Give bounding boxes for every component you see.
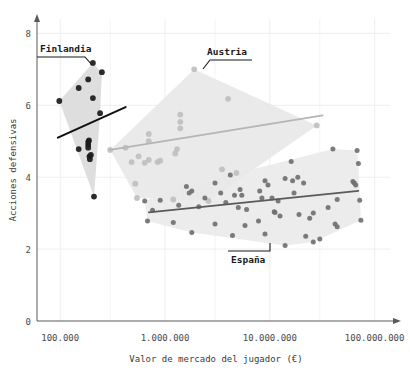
callout-espana: España <box>228 243 270 265</box>
point-españa-31 <box>355 148 360 153</box>
x-tick-0: 100.000 <box>41 333 79 343</box>
point-españa-45 <box>213 221 218 226</box>
point-españa-5 <box>213 180 218 185</box>
point-españa-54 <box>297 212 302 217</box>
point-austria-16 <box>132 181 138 187</box>
point-finlandia-13 <box>91 194 97 200</box>
point-austria-2 <box>177 112 183 118</box>
point-españa-20 <box>289 159 294 164</box>
austria-leader-line <box>203 60 252 69</box>
point-españa-58 <box>202 196 207 201</box>
point-españa-26 <box>330 147 335 152</box>
point-españa-21 <box>290 178 295 183</box>
point-españa-27 <box>335 197 340 202</box>
point-españa-57 <box>176 203 181 208</box>
y-axis-title: Acciones defensivas <box>8 119 18 222</box>
x-tick-3: 100.000.000 <box>345 333 405 343</box>
espana-label: España <box>231 254 266 265</box>
y-tick-labels: 02468 <box>26 29 31 327</box>
point-españa-0 <box>142 198 147 203</box>
point-finlandia-3 <box>99 69 105 75</box>
y-axis-arrow <box>34 14 40 22</box>
point-españa-13 <box>263 178 268 183</box>
point-austria-13 <box>157 158 163 164</box>
point-austria-1 <box>225 96 231 102</box>
point-españa-37 <box>317 237 322 242</box>
point-españa-41 <box>263 232 268 237</box>
point-españa-9 <box>238 187 243 192</box>
point-españa-14 <box>266 183 271 188</box>
point-españa-7 <box>228 173 233 178</box>
point-españa-55 <box>307 216 312 221</box>
point-austria-10 <box>129 159 135 165</box>
x-tick-2: 10.000.000 <box>243 333 297 343</box>
point-finlandia-6 <box>76 146 82 152</box>
point-españa-48 <box>145 219 150 224</box>
point-austria-22 <box>136 153 142 159</box>
point-españa-34 <box>358 218 363 223</box>
point-austria-0 <box>191 66 197 72</box>
cluster-hulls <box>59 63 361 246</box>
point-austria-14 <box>219 166 225 172</box>
finlandia-leader-line <box>37 57 92 65</box>
chart-container: 02468 100.0001.000.00010.000.000100.000.… <box>0 0 410 375</box>
point-españa-1 <box>158 198 163 203</box>
point-finlandia-14 <box>86 138 92 144</box>
y-tick-0: 0 <box>26 317 31 327</box>
y-tick-1: 2 <box>26 245 31 255</box>
point-españa-30 <box>353 183 358 188</box>
point-austria-18 <box>170 197 176 203</box>
point-españa-2 <box>184 184 189 189</box>
point-españa-8 <box>232 193 237 198</box>
point-austria-8 <box>172 151 178 157</box>
finlandia-label: Finlandia <box>40 43 92 54</box>
point-finlandia-12 <box>97 110 103 116</box>
point-austria-15 <box>234 170 240 176</box>
point-españa-39 <box>303 234 308 239</box>
x-tick-labels: 100.0001.000.00010.000.000100.000.000 <box>41 333 404 343</box>
point-finlandia-9 <box>85 145 91 151</box>
point-austria-21 <box>142 160 148 166</box>
point-españa-36 <box>333 221 338 226</box>
hull-finlandia <box>59 63 102 197</box>
point-españa-32 <box>356 161 361 166</box>
point-finlandia-0 <box>56 98 62 104</box>
point-españa-12 <box>259 196 264 201</box>
point-españa-56 <box>326 205 331 210</box>
point-finlandia-4 <box>85 77 91 83</box>
scatter-plot: 02468 100.0001.000.00010.000.000100.000.… <box>0 0 410 375</box>
point-españa-24 <box>301 180 306 185</box>
point-austria-3 <box>177 119 183 125</box>
callout-finlandia: Finlandia <box>37 43 92 65</box>
point-españa-25 <box>311 211 316 216</box>
point-españa-59 <box>236 205 241 210</box>
point-finlandia-1 <box>76 85 82 91</box>
point-españa-22 <box>292 191 297 196</box>
point-españa-19 <box>283 176 288 181</box>
point-españa-43 <box>243 223 248 228</box>
callout-austria: Austria <box>203 46 252 69</box>
point-españa-4 <box>187 191 192 196</box>
y-tick-3: 6 <box>26 101 31 111</box>
point-austria-4 <box>177 125 183 131</box>
point-españa-47 <box>171 220 176 225</box>
y-tick-2: 4 <box>26 173 31 183</box>
point-españa-11 <box>257 188 262 193</box>
point-españa-44 <box>230 233 235 238</box>
espana-leader-line <box>228 243 270 251</box>
point-españa-17 <box>273 210 278 215</box>
point-austria-5 <box>146 131 152 137</box>
point-españa-46 <box>189 230 194 235</box>
point-finlandia-15 <box>88 152 94 158</box>
point-españa-10 <box>239 193 244 198</box>
point-finlandia-5 <box>90 95 96 101</box>
point-españa-53 <box>278 214 283 219</box>
point-españa-42 <box>256 219 261 224</box>
x-tick-1: 1.000.000 <box>141 333 190 343</box>
y-tick-4: 8 <box>26 29 31 39</box>
point-españa-38 <box>311 239 316 244</box>
point-austria-20 <box>314 123 320 129</box>
point-españa-40 <box>283 243 288 248</box>
point-españa-23 <box>295 175 300 180</box>
point-españa-52 <box>244 207 249 212</box>
